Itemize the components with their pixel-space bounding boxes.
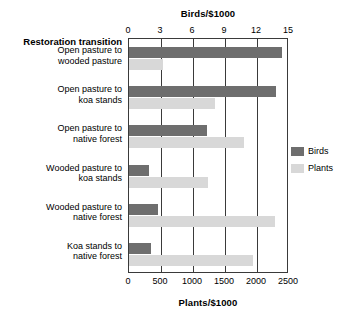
- legend-label: Plants: [308, 163, 333, 173]
- category-label: Wooded pasture tonative forest: [8, 202, 122, 223]
- plot-area: [128, 38, 288, 273]
- bar-birds: [129, 204, 158, 215]
- category-label: Open pasture tokoa stands: [8, 84, 122, 105]
- bottom-tick-label: 0: [113, 276, 143, 286]
- legend-label: Birds: [308, 146, 329, 156]
- top-tick-label: 6: [177, 25, 207, 35]
- bottom-axis-title: Plants/$1000: [128, 297, 288, 308]
- gridline: [257, 39, 258, 272]
- bar-plants: [129, 177, 208, 188]
- bottom-tick-label: 1500: [209, 276, 239, 286]
- category-label: Open pasture towooded pasture: [8, 45, 122, 66]
- category-label-line: native forest: [8, 251, 122, 262]
- category-label-line: native forest: [8, 134, 122, 145]
- top-tick-label: 3: [145, 25, 175, 35]
- category-label-line: Open pasture to: [8, 84, 122, 95]
- bottom-tick-label: 500: [145, 276, 175, 286]
- gridline: [161, 39, 162, 272]
- top-axis-title: Birds/$1000: [128, 8, 288, 19]
- bar-plants: [129, 255, 253, 266]
- category-label-line: Open pasture to: [8, 123, 122, 134]
- chart-legend: BirdsPlants: [291, 146, 339, 180]
- top-tick-label: 0: [113, 25, 143, 35]
- category-label-line: Open pasture to: [8, 45, 122, 56]
- bottom-tick-label: 2000: [241, 276, 271, 286]
- gridline: [225, 39, 226, 272]
- gridline: [193, 39, 194, 272]
- legend-swatch: [291, 147, 304, 156]
- bottom-tick-label: 1000: [177, 276, 207, 286]
- chart-container: Birds/$1000 03691215 Restoration transit…: [0, 0, 341, 322]
- legend-item: Birds: [291, 146, 339, 156]
- category-label-line: native forest: [8, 212, 122, 223]
- legend-item: Plants: [291, 163, 339, 173]
- bar-birds: [129, 47, 282, 58]
- bottom-tick-label: 2500: [273, 276, 303, 286]
- category-label: Open pasture tonative forest: [8, 123, 122, 144]
- bar-birds: [129, 165, 149, 176]
- category-label: Wooded pasture tokoa stands: [8, 163, 122, 184]
- category-label-line: koa stands: [8, 95, 122, 106]
- category-label: Koa stands tonative forest: [8, 241, 122, 262]
- category-label-line: Koa stands to: [8, 241, 122, 252]
- category-label-line: Wooded pasture to: [8, 163, 122, 174]
- bar-plants: [129, 137, 244, 148]
- bar-birds: [129, 125, 207, 136]
- top-tick-label: 9: [209, 25, 239, 35]
- category-label-line: Wooded pasture to: [8, 202, 122, 213]
- category-label-line: koa stands: [8, 173, 122, 184]
- bar-plants: [129, 59, 163, 70]
- legend-swatch: [291, 164, 304, 173]
- bar-plants: [129, 98, 215, 109]
- bar-plants: [129, 216, 275, 227]
- category-axis-labels: Open pasture towooded pastureOpen pastur…: [8, 38, 122, 273]
- category-label-line: wooded pasture: [8, 56, 122, 67]
- bar-birds: [129, 243, 151, 254]
- top-tick-label: 15: [273, 25, 303, 35]
- bar-birds: [129, 86, 276, 97]
- top-tick-label: 12: [241, 25, 271, 35]
